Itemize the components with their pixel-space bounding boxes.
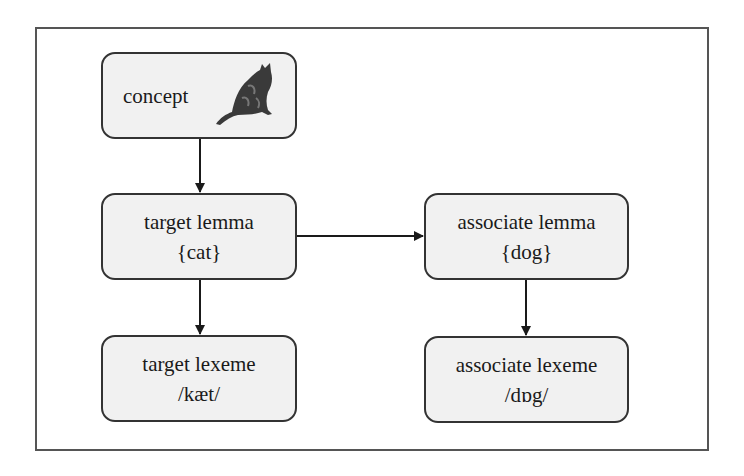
node-associate-lexeme: associate lexeme /dɒg/ xyxy=(424,336,629,423)
node-associate-lemma-label: associate lemma xyxy=(457,208,595,236)
node-target-lemma-value: {cat} xyxy=(177,238,222,266)
node-target-lexeme-value: /kæt/ xyxy=(178,380,220,408)
node-associate-lemma: associate lemma {dog} xyxy=(424,193,629,280)
node-associate-lemma-value: {dog} xyxy=(501,238,553,266)
cat-image-icon xyxy=(212,58,276,126)
node-target-lemma: target lemma {cat} xyxy=(101,193,297,280)
node-associate-lexeme-label: associate lexeme xyxy=(456,351,598,379)
node-target-lexeme-label: target lexeme xyxy=(142,350,255,378)
node-target-lexeme: target lexeme /kæt/ xyxy=(101,335,297,422)
node-target-lemma-label: target lemma xyxy=(144,208,254,236)
node-concept-label: concept xyxy=(123,82,188,110)
node-associate-lexeme-value: /dɒg/ xyxy=(505,381,549,409)
